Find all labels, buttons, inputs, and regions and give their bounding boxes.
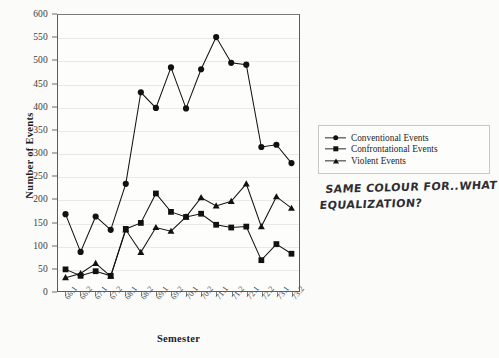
data-point-circle bbox=[108, 227, 114, 233]
plot-svg bbox=[58, 15, 299, 291]
data-point-square bbox=[168, 209, 174, 215]
legend-swatch-square-icon bbox=[325, 144, 346, 154]
data-point-circle bbox=[288, 160, 294, 166]
y-tick-label: 200 bbox=[33, 194, 48, 204]
data-point-circle bbox=[78, 249, 84, 255]
y-axis-ticks: 050100150200250300350400450500550600 bbox=[0, 0, 57, 306]
data-point-circle bbox=[183, 105, 189, 111]
series-line bbox=[66, 184, 292, 278]
legend-swatch-triangle-icon bbox=[325, 156, 346, 166]
legend-label: Conventional Events bbox=[351, 133, 429, 143]
data-point-square bbox=[274, 241, 280, 247]
series-triangle bbox=[62, 180, 295, 280]
data-point-circle bbox=[153, 105, 159, 111]
data-point-triangle bbox=[152, 224, 159, 230]
y-tick-label: 500 bbox=[33, 55, 48, 65]
y-tick-label: 300 bbox=[33, 148, 48, 158]
y-tick-label: 400 bbox=[33, 102, 48, 112]
data-point-triangle bbox=[258, 223, 265, 229]
data-point-square bbox=[243, 224, 249, 230]
y-tick-label: 600 bbox=[33, 9, 48, 19]
chart-legend: Conventional EventsConfrontational Event… bbox=[318, 125, 490, 174]
data-point-circle bbox=[243, 62, 249, 68]
data-point-triangle bbox=[288, 205, 295, 211]
data-point-square bbox=[93, 268, 99, 274]
data-point-circle bbox=[168, 64, 174, 70]
data-point-triangle bbox=[137, 249, 144, 255]
data-point-circle bbox=[198, 66, 204, 72]
series-line bbox=[66, 37, 292, 252]
y-tick-label: 50 bbox=[38, 264, 48, 274]
y-tick-label: 0 bbox=[43, 287, 48, 297]
data-point-square bbox=[63, 267, 69, 273]
data-point-circle bbox=[138, 89, 144, 95]
data-point-square bbox=[228, 225, 234, 231]
data-point-circle bbox=[258, 144, 264, 150]
data-point-square bbox=[198, 211, 204, 217]
data-point-triangle bbox=[92, 260, 99, 266]
y-tick-label: 150 bbox=[33, 218, 48, 228]
x-axis-title: Semester bbox=[57, 333, 300, 344]
y-tick-label: 350 bbox=[33, 125, 48, 135]
legend-label: Violent Events bbox=[351, 156, 406, 166]
legend-item-square[interactable]: Confrontational Events bbox=[325, 144, 483, 154]
legend-item-triangle[interactable]: Violent Events bbox=[325, 156, 483, 166]
y-tick-label: 450 bbox=[33, 79, 48, 89]
data-point-square bbox=[258, 257, 264, 263]
data-point-circle bbox=[213, 34, 219, 40]
legend-label: Confrontational Events bbox=[351, 144, 438, 154]
data-point-square bbox=[153, 191, 159, 197]
y-tick-label: 550 bbox=[33, 32, 48, 42]
handwritten-annotation: SAME COLOUR FOR..WHAT EQUALIZATION? bbox=[319, 178, 499, 214]
data-point-triangle bbox=[243, 180, 250, 186]
data-point-circle bbox=[93, 213, 99, 219]
data-point-square bbox=[138, 220, 144, 226]
data-point-square bbox=[289, 251, 295, 257]
data-point-circle bbox=[273, 142, 279, 148]
data-point-triangle bbox=[198, 194, 205, 200]
data-point-square bbox=[213, 222, 219, 228]
x-axis-ticks: 66.166.267.167.268.168.269.169.270.170.2… bbox=[57, 292, 300, 338]
chart-page: Number of Events 05010015020025030035040… bbox=[0, 0, 499, 358]
annotation-line-2: EQUALIZATION? bbox=[319, 194, 499, 214]
y-tick-label: 250 bbox=[33, 171, 48, 181]
legend-swatch-circle-icon bbox=[325, 133, 346, 143]
plot-area bbox=[57, 14, 300, 292]
legend-item-circle[interactable]: Conventional Events bbox=[325, 133, 483, 143]
data-point-circle bbox=[123, 181, 129, 187]
y-tick-label: 100 bbox=[33, 241, 48, 251]
data-point-circle bbox=[62, 211, 68, 217]
data-point-triangle bbox=[273, 193, 280, 199]
series-line bbox=[66, 193, 292, 275]
data-point-circle bbox=[228, 60, 234, 66]
